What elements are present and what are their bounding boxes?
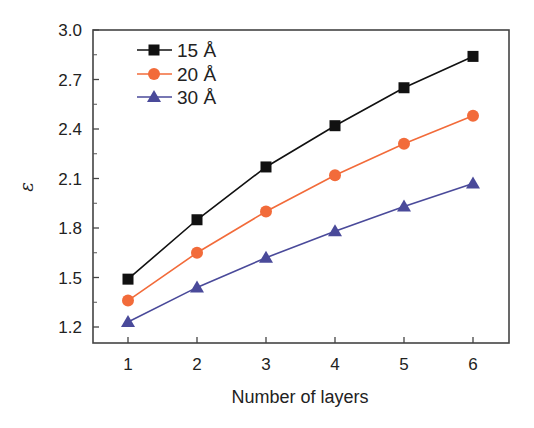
- y-tick-label: 1.8: [58, 219, 82, 238]
- y-tick-label: 2.4: [58, 120, 82, 139]
- series-circle: [122, 110, 479, 307]
- x-tick-label: 2: [192, 355, 201, 374]
- plot-series: [121, 51, 480, 327]
- data-point: [398, 138, 410, 150]
- series-line: [128, 183, 473, 322]
- x-tick-label: 1: [123, 355, 132, 374]
- data-point: [466, 176, 480, 188]
- data-point: [122, 295, 134, 307]
- legend: 15 Å20 Å30 Å: [137, 40, 216, 108]
- data-point: [259, 251, 273, 263]
- series-square: [123, 51, 479, 285]
- x-tick-label: 6: [468, 355, 477, 374]
- legend-item: 30 Å: [137, 87, 216, 108]
- data-point: [260, 206, 272, 218]
- data-point: [399, 82, 410, 93]
- x-axis-label: Number of layers: [231, 387, 368, 407]
- y-tick-label: 3.0: [58, 21, 82, 40]
- legend-marker-icon: [147, 90, 161, 102]
- series-line: [128, 116, 473, 301]
- x-tick-label: 3: [261, 355, 270, 374]
- legend-label: 30 Å: [177, 87, 216, 108]
- y-tick-label: 1.2: [58, 318, 82, 337]
- data-point: [192, 214, 203, 225]
- legend-item: 15 Å: [137, 40, 216, 61]
- legend-label: 20 Å: [177, 64, 216, 85]
- y-axis-label: ε: [16, 182, 37, 192]
- data-point: [261, 161, 272, 172]
- series-triangle: [121, 176, 480, 327]
- legend-item: 20 Å: [137, 64, 216, 85]
- data-point: [191, 247, 203, 259]
- legend-marker-icon: [149, 45, 160, 56]
- line-chart: 1.21.51.82.12.42.73.0123456 15 Å20 Å30 Å…: [0, 0, 534, 428]
- x-tick-label: 4: [330, 355, 339, 374]
- data-point: [121, 315, 135, 327]
- data-point: [190, 280, 204, 292]
- y-tick-label: 2.1: [58, 170, 82, 189]
- legend-marker-icon: [148, 68, 160, 80]
- y-tick-label: 2.7: [58, 71, 82, 90]
- data-point: [330, 120, 341, 131]
- legend-label: 15 Å: [177, 40, 216, 61]
- data-point: [123, 274, 134, 285]
- x-tick-label: 5: [399, 355, 408, 374]
- data-point: [468, 51, 479, 62]
- y-tick-label: 1.5: [58, 269, 82, 288]
- data-point: [329, 169, 341, 181]
- data-point: [467, 110, 479, 122]
